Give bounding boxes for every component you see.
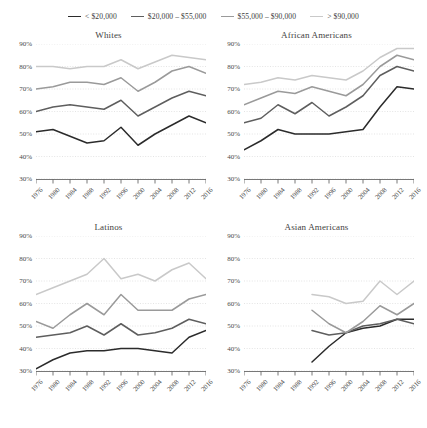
x-axis-tick-label: 1996: [114, 378, 129, 393]
series-line: [36, 91, 206, 116]
x-axis-tick-label: 2008: [373, 186, 388, 201]
legend-label: < $20,000: [85, 12, 117, 21]
y-axis-tick-label: 50%: [19, 130, 32, 138]
x-axis: 1976198019841988199219962000200420082012…: [244, 179, 414, 225]
panel-latinos: Latinos30%40%50%60%70%80%90%197619801984…: [6, 222, 211, 418]
y-axis-tick-label: 80%: [19, 255, 32, 263]
x-axis-tick-label: 2008: [373, 378, 388, 393]
x-axis-tick-label: 2012: [182, 378, 197, 393]
x-axis-tick-label: 1984: [63, 186, 78, 201]
x-axis-tick-label: 2016: [199, 378, 214, 393]
series-line: [312, 281, 414, 304]
panel-title: Latinos: [6, 222, 211, 232]
chart-legend: < $20,000$20,000 – $55,000$55,000 – $90,…: [0, 12, 427, 21]
panel-african-americans: African Americans30%40%50%60%70%80%90%19…: [214, 30, 419, 226]
plot-area: [36, 44, 206, 179]
x-axis: 1976198019841988199219962000200420082012…: [36, 371, 206, 417]
x-axis-tick-label: 1988: [80, 186, 95, 201]
panel-title: Whites: [6, 30, 211, 40]
x-axis-tick-label: 1988: [288, 378, 303, 393]
chart-figure: < $20,000$20,000 – $55,000$55,000 – $90,…: [0, 0, 427, 428]
y-axis-tick-label: 30%: [227, 367, 240, 375]
series-line: [36, 259, 206, 295]
y-axis-tick-label: 90%: [19, 40, 32, 48]
y-axis-tick-label: 70%: [227, 85, 240, 93]
series-line: [244, 49, 414, 85]
x-axis-tick-label: 2000: [131, 186, 146, 201]
y-axis-tick-label: 60%: [19, 300, 32, 308]
legend-item-20k55k: $20,000 – $55,000: [131, 12, 207, 21]
x-axis: 1976198019841988199219962000200420082012…: [36, 179, 206, 225]
y-axis-tick-label: 60%: [227, 108, 240, 116]
x-axis-tick-label: 2016: [407, 186, 422, 201]
x-axis-tick-label: 1992: [97, 378, 112, 393]
x-axis-tick-label: 1980: [254, 186, 269, 201]
x-axis-tick-label: 2000: [131, 378, 146, 393]
x-axis-tick-label: 2012: [390, 378, 405, 393]
y-axis-labels: 30%40%50%60%70%80%90%: [214, 44, 242, 179]
series-line: [36, 116, 206, 145]
plot-area: [36, 236, 206, 371]
legend-item-lt20k: < $20,000: [68, 12, 117, 21]
y-axis-labels: 30%40%50%60%70%80%90%: [6, 44, 34, 179]
y-axis-tick-label: 70%: [19, 277, 32, 285]
x-axis-labels: 1976198019841988199219962000200420082012…: [36, 186, 206, 226]
x-axis-tick-label: 2000: [339, 186, 354, 201]
y-axis-tick-label: 40%: [19, 345, 32, 353]
y-axis-tick-label: 30%: [227, 175, 240, 183]
x-axis-labels: 1976198019841988199219962000200420082012…: [244, 378, 414, 418]
x-axis-tick-label: 1984: [63, 378, 78, 393]
y-axis-tick-label: 40%: [227, 153, 240, 161]
x-axis-tick-label: 1984: [271, 378, 286, 393]
x-axis-tick-label: 2008: [165, 378, 180, 393]
x-axis-tick-label: 1980: [46, 186, 61, 201]
x-axis-tick-label: 1996: [322, 186, 337, 201]
x-axis-tick-label: 2012: [390, 186, 405, 201]
y-axis-tick-label: 30%: [19, 175, 32, 183]
x-axis: 1976198019841988199219962000200420082012…: [244, 371, 414, 417]
y-axis-tick-label: 50%: [19, 322, 32, 330]
y-axis-tick-label: 30%: [19, 367, 32, 375]
x-axis-tick-label: 1976: [29, 186, 44, 201]
y-axis-tick-label: 40%: [19, 153, 32, 161]
x-axis-tick-label: 2004: [148, 186, 163, 201]
y-axis-tick-label: 90%: [227, 40, 240, 48]
plot-area: [244, 236, 414, 371]
panel-whites: Whites30%40%50%60%70%80%90%1976198019841…: [6, 30, 211, 226]
legend-item-55k90k: $55,000 – $90,000: [221, 12, 297, 21]
y-axis-tick-label: 60%: [227, 300, 240, 308]
y-axis-tick-label: 50%: [227, 322, 240, 330]
x-axis-tick-label: 1984: [271, 186, 286, 201]
y-axis-tick-label: 80%: [227, 255, 240, 263]
panel-title: Asian Americans: [214, 222, 419, 232]
x-axis-tick-label: 1976: [237, 378, 252, 393]
y-axis-tick-label: 70%: [227, 277, 240, 285]
x-axis-tick-label: 2012: [182, 186, 197, 201]
x-axis-tick-label: 2008: [165, 186, 180, 201]
x-axis-tick-label: 1976: [29, 378, 44, 393]
series-line: [244, 87, 414, 150]
x-axis-tick-label: 1996: [322, 378, 337, 393]
legend-line-icon: [68, 16, 81, 17]
x-axis-tick-label: 1988: [288, 186, 303, 201]
series-line: [36, 331, 206, 369]
panel-asian-americans: Asian Americans30%40%50%60%70%80%90%1976…: [214, 222, 419, 418]
legend-label: $20,000 – $55,000: [148, 12, 207, 21]
x-axis-tick-label: 1992: [97, 186, 112, 201]
y-axis-tick-label: 50%: [227, 130, 240, 138]
x-axis-tick-label: 2004: [356, 186, 371, 201]
panel-grid: Whites30%40%50%60%70%80%90%1976198019841…: [0, 30, 427, 428]
x-axis-tick-label: 1992: [305, 378, 320, 393]
x-axis-tick-label: 1980: [46, 378, 61, 393]
y-axis-labels: 30%40%50%60%70%80%90%: [214, 236, 242, 371]
x-axis-tick-label: 2004: [356, 378, 371, 393]
legend-label: > $90,000: [327, 12, 359, 21]
x-axis-tick-label: 2016: [199, 186, 214, 201]
legend-line-icon: [221, 16, 234, 17]
y-axis-tick-label: 60%: [19, 108, 32, 116]
x-axis-tick-label: 1988: [80, 378, 95, 393]
x-axis-tick-label: 1980: [254, 378, 269, 393]
x-axis-labels: 1976198019841988199219962000200420082012…: [36, 378, 206, 418]
x-axis-tick-label: 2000: [339, 378, 354, 393]
legend-item-gt90k: > $90,000: [310, 12, 359, 21]
